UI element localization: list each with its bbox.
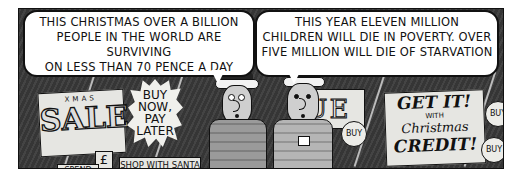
puffer-jacket <box>209 119 267 169</box>
credit-line-4: CREDIT! <box>386 133 485 156</box>
shop-with-santa-sign: SHOP WITH SANTA <box>119 157 201 169</box>
nose-icon <box>299 98 306 110</box>
christmas-credit-sign: GET IT! WITH Christmas CREDIT! <box>384 89 487 166</box>
nose-icon <box>233 100 240 112</box>
mouth-icon <box>301 114 305 118</box>
spend-sign: SPEND <box>57 164 99 169</box>
id-badge-icon <box>298 136 310 146</box>
mouth-icon <box>235 114 239 118</box>
xmas-sale-sign: XMAS SALE <box>37 89 126 157</box>
buy-badge: BUY <box>481 137 504 163</box>
face <box>222 85 252 123</box>
eye-icon <box>238 94 245 101</box>
face <box>287 83 319 123</box>
speech-bubble-left-tail <box>211 70 225 84</box>
speech-bubble-right-tail <box>287 70 301 84</box>
buy-badge: BUY <box>341 121 367 147</box>
speech-bubble-right: THIS YEAR ELEVEN MILLION CHILDREN WILL D… <box>255 10 499 77</box>
speech-bubble-left: THIS CHRISTMAS OVER A BILLION PEOPLE IN … <box>23 10 255 77</box>
buy-badge: BUY <box>485 101 504 127</box>
eye-icon <box>306 94 311 99</box>
buy-now-pay-later-sign: BUY NOW, PAY LATER <box>127 79 183 147</box>
jacket <box>273 119 333 169</box>
sale-label: SALE <box>39 101 125 137</box>
credit-line-1: GET IT! <box>385 90 484 113</box>
comic-panel: XMAS SALE BUY NOW, PAY LATER £ SPEND SHO… <box>18 8 504 169</box>
